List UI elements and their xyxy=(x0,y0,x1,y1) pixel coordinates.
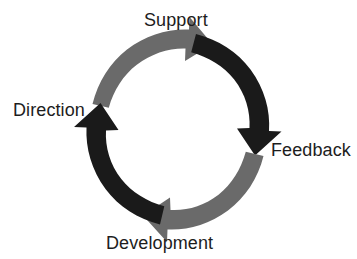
stage-label-direction: Direction xyxy=(13,101,85,119)
arrow-support-to-feedback-shape xyxy=(191,34,281,156)
arrow-feedback-to-development xyxy=(143,152,264,242)
cycle-diagram: Support Feedback Development Direction xyxy=(0,0,357,259)
stage-label-development: Development xyxy=(106,234,213,252)
arrow-development-to-direction xyxy=(74,103,164,225)
arrow-direction-to-support-shape xyxy=(93,17,213,108)
arrow-direction-to-support xyxy=(93,17,213,108)
stage-label-support: Support xyxy=(144,11,208,29)
arrow-support-to-feedback xyxy=(191,34,281,156)
arrow-development-to-direction-shape xyxy=(74,103,164,225)
cycle-arrows-graphic xyxy=(0,0,357,259)
arrow-feedback-to-development-shape xyxy=(143,152,264,242)
stage-label-feedback: Feedback xyxy=(271,141,351,159)
